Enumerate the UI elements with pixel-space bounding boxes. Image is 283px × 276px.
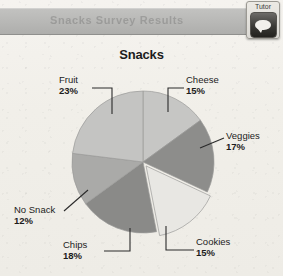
- slice-label-cheese-name: Cheese: [186, 74, 219, 85]
- top-banner-bar: Snacks Survey Results: [0, 8, 250, 35]
- slice-label-veggies: Veggies 17%: [226, 130, 260, 152]
- chart-title: Snacks: [0, 47, 283, 62]
- slice-label-veggies-name: Veggies: [226, 130, 260, 141]
- pie-slice-fruit: [73, 91, 143, 162]
- slice-label-veggies-pct: 17%: [226, 141, 260, 152]
- speech-bubble-icon: [250, 12, 277, 38]
- pie-chart: [69, 88, 217, 236]
- tutor-button-label: Tutor: [255, 3, 271, 11]
- tutor-button[interactable]: Tutor: [246, 1, 280, 39]
- slice-label-cheese: Cheese 15%: [186, 74, 219, 96]
- banner-ghost-text: Snacks Survey Results: [50, 14, 184, 26]
- pie-chart-svg: [69, 88, 217, 236]
- slice-label-nosnack: No Snack 12%: [14, 204, 55, 226]
- slice-label-fruit-pct: 23%: [59, 85, 78, 96]
- slice-label-chips-name: Chips: [63, 239, 87, 250]
- slice-label-cookies-name: Cookies: [196, 236, 230, 247]
- slice-label-fruit-name: Fruit: [59, 74, 78, 85]
- slice-label-fruit: Fruit 23%: [59, 74, 78, 96]
- slice-label-chips-pct: 18%: [63, 250, 87, 261]
- slice-label-nosnack-pct: 12%: [14, 215, 55, 226]
- slice-label-nosnack-name: No Snack: [14, 204, 55, 215]
- slice-label-cookies-pct: 15%: [196, 247, 230, 258]
- slice-label-cookies: Cookies 15%: [196, 236, 230, 258]
- slice-label-chips: Chips 18%: [63, 239, 87, 261]
- slice-label-cheese-pct: 15%: [186, 85, 219, 96]
